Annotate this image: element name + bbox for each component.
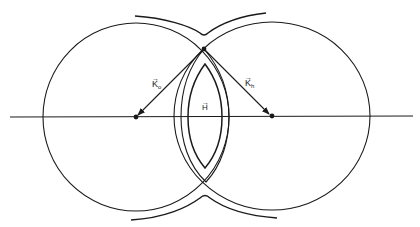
label-h: → H [202,104,208,112]
diagram-canvas [0,0,420,227]
label-kh: → Kh [245,79,254,89]
label-k0: → Ko [152,80,161,90]
vector-arrow-icon: → [152,75,159,82]
vector-arrow-icon: → [202,99,209,106]
vector-arrow-icon: → [245,74,252,81]
tie-point [202,47,207,52]
horizontal-axis [10,116,413,117]
lower-hyperbola [131,196,277,221]
upper-hyperbola [135,13,266,35]
left-sphere-center [134,115,139,120]
right-sphere-center [270,114,275,119]
wavevector-kh [204,49,269,114]
